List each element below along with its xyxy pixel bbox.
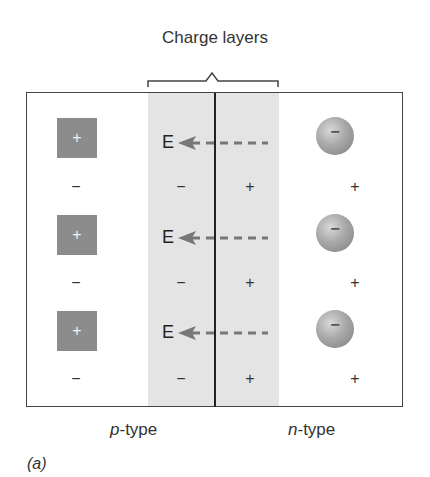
charge-sign: + <box>345 370 365 388</box>
charge-sign: + <box>240 178 260 196</box>
minus-icon: − <box>330 220 339 238</box>
charge-sign: + <box>240 370 260 388</box>
plus-icon: + <box>72 129 81 147</box>
charge-sign: − <box>66 274 86 292</box>
minus-icon: − <box>330 316 339 334</box>
p-type-label: p-type <box>110 420 157 440</box>
minus-icon: − <box>330 123 339 141</box>
charge-sign: + <box>345 274 365 292</box>
charge-sign: − <box>171 274 191 292</box>
field-label: E <box>162 322 174 343</box>
field-arrow-icon <box>176 227 271 249</box>
plus-icon: + <box>72 322 81 340</box>
field-label: E <box>162 227 174 248</box>
hole-square: + <box>57 118 97 158</box>
field-arrow-icon <box>176 322 271 344</box>
electron-sphere: − <box>316 117 354 155</box>
charge-sign: − <box>171 178 191 196</box>
hole-square: + <box>57 311 97 351</box>
hole-square: + <box>57 215 97 255</box>
n-type-label: n-type <box>288 420 335 440</box>
charge-sign: + <box>345 178 365 196</box>
charge-sign: − <box>66 370 86 388</box>
n-type-suffix: -type <box>297 420 335 439</box>
charge-sign: + <box>240 274 260 292</box>
electron-sphere: − <box>316 310 354 348</box>
charge-sign: − <box>66 178 86 196</box>
figure-caption: (a) <box>27 455 47 473</box>
p-type-suffix: -type <box>119 420 157 439</box>
field-label: E <box>162 132 174 153</box>
field-arrow-icon <box>176 132 271 154</box>
electron-sphere: − <box>316 214 354 252</box>
plus-icon: + <box>72 226 81 244</box>
charge-sign: − <box>171 370 191 388</box>
